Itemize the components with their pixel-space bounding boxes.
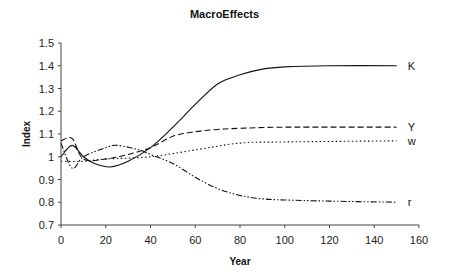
x-tick-label: 60 xyxy=(189,234,201,246)
y-tick-label: 0.7 xyxy=(39,219,54,231)
line-chart: 0.70.80.911.11.21.31.41.5020406080100120… xyxy=(0,0,449,280)
series-label-Y: Y xyxy=(408,121,416,133)
x-tick-label: 140 xyxy=(365,234,383,246)
x-axis-label: Year xyxy=(229,256,250,267)
y-axis-label: Index xyxy=(21,121,32,148)
x-tick-label: 40 xyxy=(144,234,156,246)
x-tick-label: 0 xyxy=(58,234,64,246)
series-line-K xyxy=(61,66,397,167)
y-tick-label: 1.3 xyxy=(39,83,54,95)
x-tick-label: 100 xyxy=(276,234,294,246)
series-label-r: r xyxy=(408,196,412,208)
series-label-K: K xyxy=(408,60,416,72)
y-tick-label: 0.9 xyxy=(39,174,54,186)
y-tick-label: 1.1 xyxy=(39,128,54,140)
y-tick-label: 0.8 xyxy=(39,196,54,208)
y-tick-label: 1.4 xyxy=(39,60,54,72)
series-label-w: w xyxy=(407,135,416,147)
series-line-r xyxy=(61,143,397,202)
x-tick-label: 80 xyxy=(234,234,246,246)
y-tick-label: 1.2 xyxy=(39,105,54,117)
y-tick-label: 1.5 xyxy=(39,37,54,49)
x-tick-label: 160 xyxy=(410,234,428,246)
x-tick-label: 120 xyxy=(320,234,338,246)
x-tick-label: 20 xyxy=(100,234,112,246)
y-tick-label: 1 xyxy=(48,151,54,163)
